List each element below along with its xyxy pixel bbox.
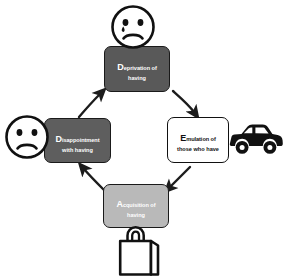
node-disappointment[interactable]: Disappointment with having	[44, 118, 111, 163]
sad-face-icon	[4, 112, 50, 162]
node-deprivation[interactable]: Deprivation of having	[104, 46, 170, 92]
node-disappointment-subtitle: with having	[62, 147, 93, 153]
diagram-canvas: Deprivation of having Emulation of those…	[0, 0, 287, 279]
node-emulation[interactable]: Emulation of those who have	[167, 117, 229, 163]
node-emulation-subtitle: those who have	[177, 146, 219, 152]
node-acquisition-title: Acquisition of	[116, 193, 155, 211]
sad-face-with-tear-icon	[108, 4, 158, 50]
node-acquisition[interactable]: Acquisition of having	[103, 184, 169, 228]
shopping-bag-icon	[117, 225, 161, 277]
node-emulation-title: Emulation of	[180, 127, 216, 145]
node-deprivation-subtitle: having	[128, 75, 146, 81]
node-disappointment-title: Disappointment	[55, 128, 99, 146]
node-acquisition-subtitle: having	[127, 212, 145, 218]
arrow-deprivation-to-emulation	[173, 91, 194, 112]
arrow-acquisition-to-disappointment	[84, 169, 104, 190]
arrow-emulation-to-acquisition	[170, 167, 190, 187]
node-deprivation-title: Deprivation of	[117, 56, 156, 74]
car-icon	[229, 120, 283, 158]
arrow-disappointment-to-deprivation	[79, 94, 100, 117]
